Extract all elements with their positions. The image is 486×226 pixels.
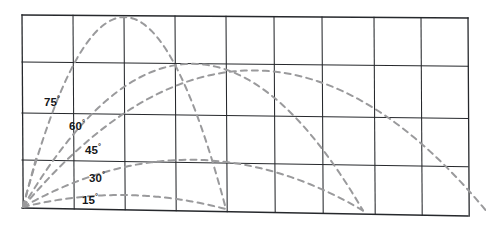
grid-line-vertical [22, 15, 23, 208]
grid-line-horizontal [22, 62, 468, 66]
label-75: 75° [44, 94, 60, 108]
grid-line-vertical [374, 17, 375, 214]
grid-line-vertical [468, 18, 469, 216]
label-75-value: 75 [44, 96, 57, 108]
label-15-value: 15 [82, 194, 95, 206]
label-45-degree-symbol: ° [98, 142, 101, 151]
grid-line-vertical [73, 15, 74, 209]
figure-canvas [0, 0, 486, 226]
grid-line-vertical [274, 17, 275, 213]
label-15-degree-symbol: ° [95, 192, 98, 201]
grid-line-vertical [175, 16, 176, 211]
grid-line-horizontal [22, 208, 468, 216]
grid-line-vertical [322, 17, 323, 213]
label-45-value: 45 [85, 144, 98, 156]
label-60-value: 60 [69, 120, 82, 132]
label-60: 60° [69, 118, 85, 132]
grid-line-vertical [226, 16, 227, 211]
grid-line-vertical [421, 18, 422, 215]
label-30: 30° [89, 170, 105, 184]
label-30-degree-symbol: ° [102, 170, 105, 179]
label-60-degree-symbol: ° [82, 118, 85, 127]
trajectory-curve-15 [23, 195, 226, 209]
label-30-value: 30 [89, 172, 102, 184]
label-75-degree-symbol: ° [57, 94, 60, 103]
label-45: 45° [85, 142, 101, 156]
label-15: 15° [82, 192, 98, 206]
grid-line-horizontal [22, 15, 468, 18]
projectile-trajectory-figure: 75°60°45°30°15° [0, 0, 486, 226]
